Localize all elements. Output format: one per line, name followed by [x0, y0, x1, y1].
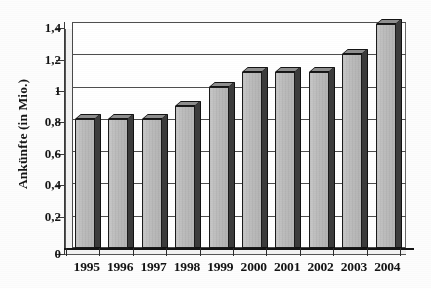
x-tick-mark	[99, 248, 100, 256]
bar-side-face	[262, 67, 268, 248]
bar-2000	[242, 72, 262, 248]
x-tick-mark	[66, 248, 67, 256]
bar-front-face	[209, 87, 229, 248]
x-tick-mark	[400, 248, 401, 256]
x-tick-mark	[133, 248, 134, 256]
bar-1998	[175, 106, 195, 248]
bar-side-face	[295, 67, 301, 248]
bar-front-face	[75, 119, 95, 248]
bar-chart: Ankünfte (in Mio.) 00,20,40,60,811,21,4 …	[0, 0, 431, 288]
bar-side-face	[162, 114, 168, 248]
bar-front-face	[175, 106, 195, 248]
bar-1995	[75, 119, 95, 248]
plot-area: 00,20,40,60,811,21,4	[72, 22, 406, 248]
y-tick-label: 0,2	[17, 209, 61, 225]
y-tick-label: 1,2	[17, 52, 61, 68]
x-tick-mark	[300, 248, 301, 256]
bar-2004	[376, 24, 396, 248]
bar-1996	[108, 119, 128, 248]
bar-side-face	[128, 114, 134, 248]
bar-front-face	[275, 72, 295, 248]
x-tick-label-2004: 2004	[363, 259, 411, 275]
y-axis-spine	[64, 22, 65, 255]
bar-1997	[142, 119, 162, 248]
x-axis-line	[64, 248, 414, 250]
bar-front-face	[309, 72, 329, 248]
plot-depth-left	[65, 29, 72, 255]
bar-side-face	[362, 49, 368, 248]
x-tick-mark	[233, 248, 234, 256]
y-tick-label: 1,4	[17, 20, 61, 36]
bar-1999	[209, 87, 229, 248]
y-tick-label: 0,6	[17, 146, 61, 162]
bar-side-face	[396, 19, 402, 248]
y-tick-label: 0,4	[17, 177, 61, 193]
x-tick-mark	[333, 248, 334, 256]
y-tick-label: 0,8	[17, 114, 61, 130]
bar-front-face	[242, 72, 262, 248]
bar-2003	[342, 54, 362, 248]
bar-2001	[275, 72, 295, 248]
x-tick-mark	[266, 248, 267, 256]
y-tick-label: 0	[17, 246, 61, 262]
bar-front-face	[342, 54, 362, 248]
bar-2002	[309, 72, 329, 248]
bar-side-face	[329, 67, 335, 248]
bar-front-face	[108, 119, 128, 248]
x-tick-mark	[367, 248, 368, 256]
bar-side-face	[195, 101, 201, 248]
x-tick-mark	[200, 248, 201, 256]
bar-front-face	[376, 24, 396, 248]
bar-side-face	[229, 82, 235, 248]
x-tick-mark	[166, 248, 167, 256]
bar-front-face	[142, 119, 162, 248]
bar-side-face	[95, 114, 101, 248]
y-tick-label: 1	[17, 83, 61, 99]
gridline-1,4	[72, 22, 406, 23]
